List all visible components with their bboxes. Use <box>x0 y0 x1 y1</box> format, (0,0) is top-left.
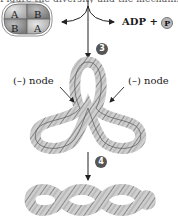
subunit-label-b1: B <box>34 9 41 20</box>
gyrase-enzyme-icon <box>2 2 52 36</box>
subunit-label-a2: A <box>34 23 41 34</box>
subunit-label-a1: A <box>11 9 18 20</box>
diagram-canvas <box>0 0 178 222</box>
step-badge-3: 3 <box>96 43 108 55</box>
adp-label: ADP + <box>122 16 158 27</box>
enzyme-release-arrow <box>62 6 88 22</box>
right-node-label: (–) node <box>128 75 169 86</box>
negatively-supercoiled-dna <box>30 190 150 211</box>
adp-release-arrow <box>88 6 114 22</box>
left-node-label: (–) node <box>13 75 54 86</box>
adp-phosphate-label: ADP + P <box>122 16 173 29</box>
phosphate-icon: P <box>161 17 173 29</box>
subunit-label-b2: B <box>11 23 18 34</box>
step-badge-4: 4 <box>95 156 107 168</box>
right-node-arrow <box>110 87 124 102</box>
